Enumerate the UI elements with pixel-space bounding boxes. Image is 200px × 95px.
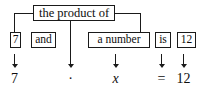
arrow-head bbox=[68, 64, 74, 68]
connector-left-horizontal bbox=[14, 13, 34, 14]
phrase-box-and: and bbox=[31, 32, 56, 48]
connector-left-vertical bbox=[14, 13, 15, 32]
phrase-box-label: 7 bbox=[13, 34, 19, 46]
phrase-box-label: the product of bbox=[39, 7, 109, 20]
phrase-box-seven: 7 bbox=[10, 32, 21, 48]
equation-term-1: 7 bbox=[6, 72, 23, 86]
arrow-head bbox=[159, 64, 165, 68]
phrase-box-label: is bbox=[159, 34, 167, 46]
arrow-head bbox=[12, 64, 18, 68]
phrase-box-twelve: 12 bbox=[177, 32, 196, 48]
equation-term-2: 12 bbox=[174, 72, 193, 86]
phrase-box-label: and bbox=[35, 34, 52, 46]
arrow-head bbox=[113, 64, 119, 68]
equation-variable: x bbox=[107, 72, 124, 86]
connector-center-vertical bbox=[70, 21, 71, 56]
connector-right-vertical bbox=[140, 13, 141, 32]
phrase-box-the-product-of: the product of bbox=[33, 5, 115, 21]
phrase-box-label: 12 bbox=[181, 34, 193, 46]
connector-right-horizontal bbox=[114, 13, 141, 14]
equation-equals-operator: = bbox=[153, 72, 170, 86]
phrase-box-label: a number bbox=[97, 34, 140, 46]
equation-multiply-operator: · bbox=[62, 72, 79, 86]
arrow-head bbox=[181, 64, 187, 68]
phrase-box-is: is bbox=[155, 32, 171, 48]
translation-diagram: the product of 7 and a number is 12 7 · … bbox=[0, 0, 200, 95]
phrase-box-a-number: a number bbox=[88, 32, 150, 48]
